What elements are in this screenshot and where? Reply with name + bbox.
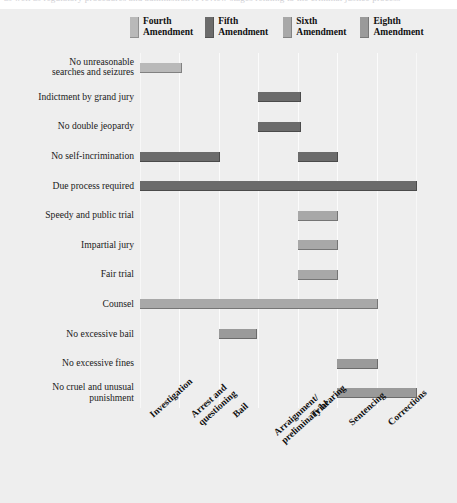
row-label: Impartial jury bbox=[1, 240, 134, 251]
legend-label-line1: Fifth bbox=[218, 16, 268, 27]
row-label: No unreasonablesearches and seizures bbox=[1, 57, 134, 78]
row-label: Due process required bbox=[1, 181, 134, 192]
chart-bar[interactable] bbox=[298, 270, 338, 280]
legend-label-line2: Amendment bbox=[296, 27, 346, 38]
row-label-line1: No excessive bail bbox=[1, 329, 134, 340]
legend-label-line1: Sixth bbox=[296, 16, 346, 27]
legend-label-line1: Eighth bbox=[373, 16, 423, 27]
row-label-line2: punishment bbox=[1, 393, 134, 404]
gridline bbox=[179, 53, 180, 408]
chart-bar[interactable] bbox=[298, 240, 338, 250]
legend-swatch-icon bbox=[205, 17, 214, 38]
row-label-line1: No self-incrimination bbox=[1, 151, 134, 162]
row-label-line1: Speedy and public trial bbox=[1, 210, 134, 221]
chart-plot-area bbox=[140, 53, 416, 408]
legend-label-line2: Amendment bbox=[143, 27, 193, 38]
gridline bbox=[140, 53, 141, 408]
row-label: Indictment by grand jury bbox=[1, 92, 134, 103]
row-label: No self-incrimination bbox=[1, 151, 134, 162]
legend-swatch-icon bbox=[360, 17, 369, 38]
legend-swatch-icon bbox=[130, 17, 139, 38]
row-label: Fair trial bbox=[1, 269, 134, 280]
row-label: Speedy and public trial bbox=[1, 210, 134, 221]
top-cutoff-text: as well as regulatory procedures and adm… bbox=[4, 0, 401, 3]
row-label: Counsel bbox=[1, 299, 134, 310]
legend-item-eighth-amendment[interactable]: EighthAmendment bbox=[360, 16, 423, 38]
gridline bbox=[219, 53, 220, 408]
legend-label: FifthAmendment bbox=[218, 16, 268, 38]
legend-label: FourthAmendment bbox=[143, 16, 193, 38]
chart-bar[interactable] bbox=[258, 92, 300, 102]
chart-legend: FourthAmendmentFifthAmendmentSixthAmendm… bbox=[0, 9, 457, 45]
chart-bar[interactable] bbox=[140, 152, 220, 162]
chart-bar[interactable] bbox=[140, 299, 378, 309]
row-label-line1: Counsel bbox=[1, 299, 134, 310]
row-label-line1: Fair trial bbox=[1, 269, 134, 280]
chart-bar[interactable] bbox=[219, 329, 257, 339]
chart-bar[interactable] bbox=[298, 152, 338, 162]
chart-bar[interactable] bbox=[258, 122, 300, 132]
row-label-line1: Impartial jury bbox=[1, 240, 134, 251]
chart-x-axis-labels: InvestigationArrest andquestioningBailAr… bbox=[0, 408, 457, 503]
top-cutoff-text-strip: as well as regulatory procedures and adm… bbox=[0, 0, 457, 9]
row-label-line1: No double jeopardy bbox=[1, 121, 134, 132]
legend-label: SixthAmendment bbox=[296, 16, 346, 38]
row-label: No double jeopardy bbox=[1, 121, 134, 132]
row-label-line2: searches and seizures bbox=[1, 67, 134, 78]
legend-label-line1: Fourth bbox=[143, 16, 193, 27]
row-label: No excessive bail bbox=[1, 329, 134, 340]
chart-bar[interactable] bbox=[298, 211, 338, 221]
row-label: No cruel and unusualpunishment bbox=[1, 382, 134, 403]
gridline bbox=[416, 53, 417, 408]
gridline bbox=[298, 53, 299, 408]
legend-label: EighthAmendment bbox=[373, 16, 423, 38]
chart-row-label-axis: No unreasonablesearches and seizuresIndi… bbox=[4, 53, 137, 408]
gridline bbox=[258, 53, 259, 408]
row-label-line1: Due process required bbox=[1, 181, 134, 192]
legend-item-fourth-amendment[interactable]: FourthAmendment bbox=[130, 16, 193, 38]
row-label-line1: No excessive fines bbox=[1, 358, 134, 369]
chart-bar[interactable] bbox=[140, 63, 182, 73]
legend-label-line2: Amendment bbox=[218, 27, 268, 38]
gridline bbox=[337, 53, 338, 408]
legend-label-line2: Amendment bbox=[373, 27, 423, 38]
legend-item-sixth-amendment[interactable]: SixthAmendment bbox=[283, 16, 346, 38]
row-label-line1: Indictment by grand jury bbox=[1, 92, 134, 103]
legend-swatch-icon bbox=[283, 17, 292, 38]
chart-bar[interactable] bbox=[140, 181, 417, 191]
legend-item-fifth-amendment[interactable]: FifthAmendment bbox=[205, 16, 268, 38]
chart-bar[interactable] bbox=[337, 359, 377, 369]
row-label: No excessive fines bbox=[1, 358, 134, 369]
gridline bbox=[377, 53, 378, 408]
